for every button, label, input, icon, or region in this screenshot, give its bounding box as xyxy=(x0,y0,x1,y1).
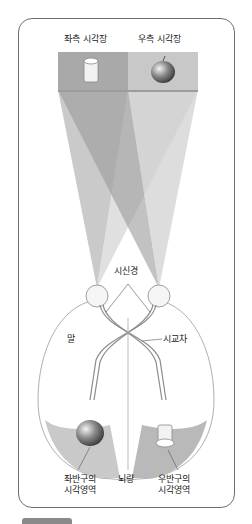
left-visual-cortex-label: 좌반구의 시각영역 xyxy=(64,474,96,496)
optic-nerve-label: 시신경 xyxy=(114,266,138,277)
left-visual-field-label: 좌측 시각장 xyxy=(64,34,107,45)
right-eye xyxy=(148,285,170,307)
visual-pathway-diagram xyxy=(0,0,252,524)
caption-tab xyxy=(22,518,72,524)
side-label: 말 xyxy=(67,334,75,345)
right-visual-cortex-label: 우반구의 시각영역 xyxy=(158,474,190,496)
optic-chiasm-label: 시교차 xyxy=(163,334,187,345)
cup-icon xyxy=(84,58,98,82)
left-eye xyxy=(86,285,108,307)
right-visual-field-label: 우측 시각장 xyxy=(138,34,181,45)
apple-icon xyxy=(76,420,104,446)
corpus-callosum-label: 뇌량 xyxy=(118,474,134,485)
cup-icon xyxy=(156,425,174,447)
